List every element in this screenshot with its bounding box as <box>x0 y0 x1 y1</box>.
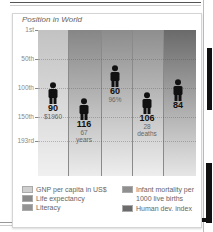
rank-value: 116 <box>69 119 99 129</box>
person-icon <box>78 98 90 120</box>
rank-detail: 96% <box>100 96 130 103</box>
gridline <box>38 59 196 60</box>
person-icon <box>141 92 153 114</box>
legend-swatch-literacy <box>22 204 33 211</box>
top-rule-secondary <box>10 5 201 6</box>
rank-value: 106 <box>132 113 162 123</box>
rank-detail: deaths <box>132 130 162 137</box>
chart-title: Position in World <box>22 15 82 24</box>
rank-value: 84 <box>163 100 193 110</box>
rank-value: 90 <box>38 103 68 113</box>
right-accent-bar-top <box>207 48 212 110</box>
legend-swatch-human-dev-index <box>122 205 133 212</box>
y-tick-label: 1st <box>12 26 34 33</box>
right-column-divider <box>203 0 204 232</box>
legend-label-literacy: Literacy <box>36 204 61 212</box>
y-tick-label: 150th <box>12 113 34 120</box>
y-tick-label: 50th <box>12 55 34 62</box>
legend-label-infant-mortality: Infant mortality per <box>136 186 194 194</box>
gridline <box>38 141 196 142</box>
y-tick-label: 193rd <box>12 137 34 144</box>
legend-label-gnp: GNP per capita in US$ <box>36 186 107 194</box>
rank-detail: $1960 <box>38 113 68 120</box>
legend-label-infant-mortality-line2: 1000 live births <box>136 195 183 203</box>
person-icon <box>109 65 121 87</box>
legend-swatch-gnp <box>22 186 33 193</box>
top-rule <box>10 2 201 3</box>
rank-detail: years <box>69 136 99 143</box>
person-icon <box>172 79 184 101</box>
person-icon <box>47 82 59 104</box>
rank-detail: 28 <box>132 123 162 130</box>
right-accent-bar-bottom <box>206 163 212 223</box>
legend-label-life-expectancy: Life expectancy <box>36 195 85 203</box>
legend-swatch-life-expectancy <box>22 195 33 202</box>
column-literacy <box>102 30 133 176</box>
legend-swatch-infant-mortality <box>122 186 133 193</box>
rank-value: 60 <box>100 86 130 96</box>
y-tick-label: 100th <box>12 84 34 91</box>
rank-detail: 67 <box>69 129 99 136</box>
legend-label-human-dev-index: Human dev. index <box>136 205 192 213</box>
